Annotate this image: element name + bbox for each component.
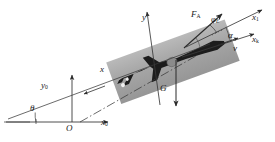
axis-xk-label: xk <box>252 35 259 45</box>
weight-label: G <box>160 84 167 93</box>
angle-alpha-label: α <box>228 31 233 40</box>
velocity-label: v <box>233 44 237 53</box>
axis-x0-label: x0 <box>101 118 108 128</box>
axis-x1-label: x1 <box>252 13 259 23</box>
axis-y0-label: y0 <box>41 81 48 91</box>
diagram-svg <box>0 0 275 142</box>
axis-x-body-label: x <box>100 65 104 74</box>
figure-canvas: FA φE x1 xk v α y x G y0 x0 O θ <box>0 0 275 142</box>
angle-phi-label: φE <box>211 15 219 25</box>
angle-theta-label: θ <box>30 104 34 113</box>
origin-label: O <box>66 124 73 133</box>
force-aero-label: FA <box>191 10 201 20</box>
axis-y-body-label: y <box>142 13 146 22</box>
